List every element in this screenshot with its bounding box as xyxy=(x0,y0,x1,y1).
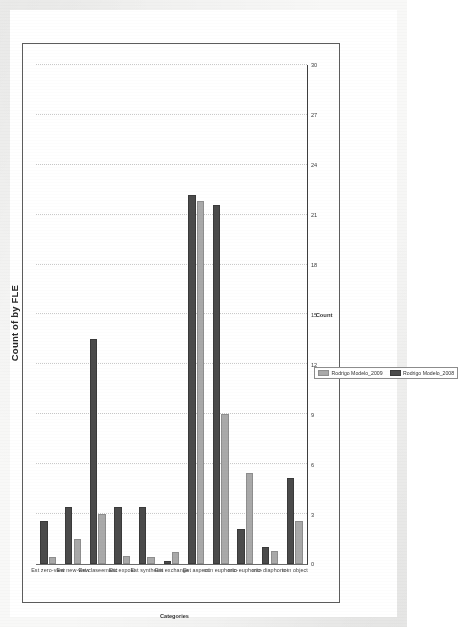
gridline-vertical xyxy=(36,513,307,514)
gridline-vertical xyxy=(36,64,307,65)
x-axis-title-label: Count xyxy=(316,312,333,318)
x-axis-tick-label: 24 xyxy=(311,162,317,168)
y-axis-category-label: mtn object xyxy=(282,567,308,573)
bar-series-light xyxy=(123,556,130,564)
gridline-vertical xyxy=(36,214,307,215)
legend-swatch xyxy=(318,370,329,376)
x-axis-tick-label: 21 xyxy=(311,212,317,218)
bar-chart-figure: Count of by FLE 036912151821242730Est ze… xyxy=(10,10,397,617)
plot-area: 036912151821242730Est zero-viewEst new-v… xyxy=(36,65,308,565)
legend-item: Rodrigo Modelo_2008 xyxy=(390,370,455,376)
bar-series-dark xyxy=(213,205,220,564)
bar-series-dark xyxy=(237,529,244,564)
x-axis-tick-label: 3 xyxy=(311,512,314,518)
bar-series-light xyxy=(271,551,278,564)
bar-series-dark xyxy=(164,561,171,564)
x-axis-tick-label: 6 xyxy=(311,462,314,468)
gridline-vertical xyxy=(36,164,307,165)
gridline-vertical xyxy=(36,114,307,115)
gridline-vertical xyxy=(36,463,307,464)
x-axis-tick-label: 18 xyxy=(311,262,317,268)
plot-inner: 036912151821242730Est zero-viewEst new-v… xyxy=(36,65,307,564)
gridline-vertical xyxy=(36,264,307,265)
chart-legend: Rodrigo Modelo_2009Rodrigo Modelo_2008 xyxy=(314,367,458,379)
gridline-vertical xyxy=(36,314,307,315)
x-axis-tick-label: 30 xyxy=(311,63,317,69)
bar-series-light xyxy=(49,557,56,564)
bar-series-dark xyxy=(262,547,269,564)
x-axis-tick-label: 9 xyxy=(311,412,314,418)
x-axis-tick-label: 0 xyxy=(311,562,314,568)
gridline-vertical xyxy=(36,363,307,364)
legend-swatch xyxy=(390,370,401,376)
bar-series-light xyxy=(197,201,204,564)
legend-item: Rodrigo Modelo_2009 xyxy=(318,370,383,376)
y-axis-title-label: Categories xyxy=(160,613,189,619)
gridline-vertical xyxy=(36,413,307,414)
chart-figure-wrapper: Count of by FLE 036912151821242730Est ze… xyxy=(10,10,397,617)
legend-label: Rodrigo Modelo_2008 xyxy=(403,370,454,376)
bar-series-light xyxy=(147,557,154,564)
bar-series-light xyxy=(74,539,81,564)
bar-series-dark xyxy=(139,507,146,564)
legend-label: Rodrigo Modelo_2009 xyxy=(332,370,383,376)
x-axis-tick-label: 27 xyxy=(311,112,317,118)
bar-series-light xyxy=(246,473,253,564)
bar-series-dark xyxy=(287,478,294,564)
bar-series-light xyxy=(221,414,228,564)
bar-series-dark xyxy=(40,521,47,564)
bar-series-light xyxy=(295,521,302,564)
bar-series-dark xyxy=(114,507,121,564)
bar-series-dark xyxy=(90,339,97,564)
bar-series-dark xyxy=(188,195,195,564)
bar-series-dark xyxy=(65,507,72,564)
bar-series-light xyxy=(172,552,179,564)
page-title: Count of by FLE xyxy=(9,43,20,603)
bar-series-light xyxy=(98,514,105,564)
